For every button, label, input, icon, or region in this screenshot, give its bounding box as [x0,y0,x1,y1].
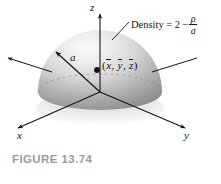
x-axis-label: x [17,130,22,141]
negative-x-axis-stub [152,58,197,72]
z-axis-label: z [90,2,94,13]
centroid-label: (x, y, z) [102,60,137,71]
figure-13-74: z x y a (x, y, z) Density = 2 −ρa FIGURE… [0,0,221,184]
density-equals-sign: = [166,19,172,30]
density-minus-sign: − [183,19,189,30]
figure-caption: FIGURE 13.74 [12,153,92,165]
y-axis-label: y [184,130,189,141]
density-fraction-denominator: a [189,25,197,37]
centroid-z-bar: z [128,60,133,71]
density-fraction: ρa [189,14,197,37]
centroid-point [94,67,100,73]
density-fraction-numerator: ρ [189,14,197,26]
centroid-comma-2: , [123,59,126,71]
centroid-comma-1: , [112,59,115,71]
density-constant: 2 [175,19,180,30]
centroid-y-bar: y [117,60,123,71]
density-word: Density [131,19,164,30]
centroid-close-paren: ) [134,59,138,71]
density-label: Density = 2 −ρa [131,14,198,37]
radius-label: a [70,52,76,63]
centroid-x-bar: x [106,60,112,71]
